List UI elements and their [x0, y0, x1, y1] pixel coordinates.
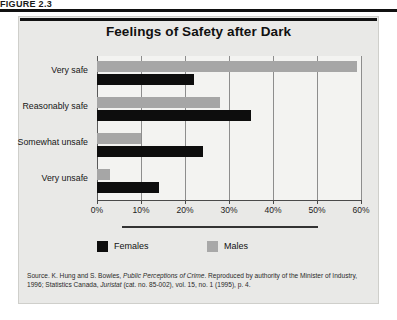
gridline [361, 56, 362, 200]
x-axis-tick-label: 40% [264, 205, 281, 215]
bar-females [97, 182, 159, 193]
chart-title: Feelings of Safety after Dark [18, 24, 379, 39]
gridline [229, 56, 230, 200]
legend-divider [122, 226, 318, 228]
bar-females [97, 74, 194, 85]
legend-label: Males [224, 240, 248, 252]
gridline [317, 56, 318, 200]
category-label: Reasonably safe [0, 101, 88, 111]
legend-swatch-males [207, 241, 218, 252]
category-label: Somewhat unsafe [0, 137, 88, 147]
x-axis-tick [317, 200, 318, 204]
bar-females [97, 110, 251, 121]
x-axis-tick-label: 50% [308, 205, 325, 215]
x-axis-tick [361, 200, 362, 204]
chart-legend: FemalesMales [97, 240, 337, 254]
x-axis-tick-label: 60% [352, 205, 369, 215]
legend-swatch-females [97, 241, 108, 252]
x-axis-tick [97, 200, 98, 204]
top-rule-divider [0, 9, 397, 12]
x-axis-tick-label: 10% [132, 205, 149, 215]
x-axis-tick-label: 0% [91, 205, 103, 215]
panel-top-rule [20, 18, 377, 21]
bar-males [97, 97, 220, 108]
bar-females [97, 146, 203, 157]
source-title-primary: Public Perceptions of Crime [123, 272, 204, 279]
gridline [273, 56, 274, 200]
source-title-secondary: Juristat [100, 281, 121, 288]
x-axis-tick [141, 200, 142, 204]
bar-males [97, 169, 110, 180]
bar-males [97, 133, 141, 144]
x-axis-tick-label: 30% [220, 205, 237, 215]
x-axis-tick [185, 200, 186, 204]
figure-container: FIGURE 2.3 Feelings of Safety after Dark… [0, 0, 397, 320]
figure-number-label: FIGURE 2.3 [0, 0, 110, 9]
source-note: Source. K. Hung and S. Bowles, Public Pe… [27, 271, 372, 290]
source-prefix: Source. K. Hung and S. Bowles, [27, 272, 123, 279]
legend-label: Females [114, 240, 149, 252]
bar-males [97, 61, 357, 72]
x-axis-tick-label: 20% [176, 205, 193, 215]
x-axis-tick [273, 200, 274, 204]
source-suffix: (cat. no. 85-002), vol. 15, no. 1 (1995)… [122, 281, 251, 288]
category-label: Very unsafe [0, 173, 88, 183]
category-label: Very safe [0, 65, 88, 75]
x-axis-tick [229, 200, 230, 204]
